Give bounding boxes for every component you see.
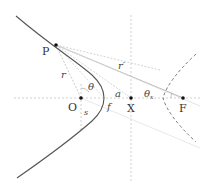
hyperbola-diagram: P O X F r r′ θ θx a f s	[0, 0, 208, 193]
point-o	[79, 96, 83, 100]
label-x: X	[127, 102, 135, 115]
hyperbola-left-branch	[16, 16, 104, 178]
label-f: F	[179, 102, 187, 115]
point-x	[129, 96, 133, 100]
tangent-line	[56, 45, 200, 106]
label-s: s	[84, 108, 88, 117]
point-p	[54, 43, 58, 47]
label-f-distance: f	[106, 101, 113, 112]
label-p: P	[42, 45, 50, 58]
line-r	[56, 45, 81, 98]
label-r-prime: r′	[118, 60, 126, 71]
point-f	[181, 96, 185, 100]
label-theta-x: θx	[144, 88, 154, 100]
label-theta: θ	[88, 81, 94, 92]
label-o: O	[68, 101, 77, 114]
label-r: r	[61, 69, 67, 80]
label-a: a	[115, 88, 121, 99]
